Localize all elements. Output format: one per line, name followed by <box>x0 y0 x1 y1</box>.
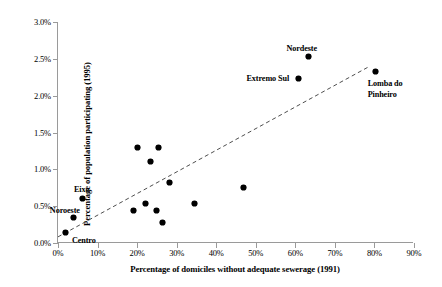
data-point <box>143 201 148 206</box>
y-axis-tick-label: 2.5% <box>34 54 51 64</box>
x-axis-tick-label: 30% <box>169 248 184 258</box>
y-axis-tick-label: 1.0% <box>34 164 51 174</box>
data-point <box>241 185 246 190</box>
plot-inner: EixoNoroesteCentroExtremo SulNordesteLom… <box>58 22 413 242</box>
x-axis-tick-label: 80% <box>367 248 382 258</box>
y-axis-tick <box>53 133 58 134</box>
y-axis-tick-label: 3.0% <box>34 17 51 27</box>
x-axis-tick-label: 90% <box>407 248 422 258</box>
y-axis-tick <box>53 169 58 170</box>
x-axis-title: Percentage of domiciles without adequate… <box>57 264 413 274</box>
data-point <box>306 54 311 59</box>
data-point <box>167 180 172 185</box>
x-axis-tick-label: 20% <box>130 248 145 258</box>
data-point <box>373 69 378 74</box>
y-axis-tick-label: 0.5% <box>34 201 51 211</box>
x-axis-tick-label: 70% <box>327 248 342 258</box>
data-point-label: Lomba do <box>368 79 403 89</box>
data-point <box>148 159 153 164</box>
data-point-label: Pinheiro <box>368 90 397 100</box>
data-point-label: Nordeste <box>286 44 317 54</box>
data-point-label: Extremo Sul <box>246 74 289 84</box>
data-point <box>192 201 197 206</box>
y-axis-tick-label: 1.5% <box>34 128 51 138</box>
plot-area: EixoNoroesteCentroExtremo SulNordesteLom… <box>57 22 413 243</box>
scatter-chart: Percentage of population participating (… <box>0 0 442 287</box>
y-axis-tick <box>53 96 58 97</box>
y-axis-tick <box>53 22 58 23</box>
data-point <box>154 208 159 213</box>
data-point-label: Noroeste <box>50 206 80 216</box>
y-axis-tick <box>53 59 58 60</box>
data-point <box>135 145 140 150</box>
data-point <box>63 230 68 235</box>
x-axis-tick-label: 60% <box>288 248 303 258</box>
trendline <box>58 22 413 242</box>
data-point <box>296 76 301 81</box>
data-point <box>71 215 76 220</box>
y-axis-tick <box>53 206 58 207</box>
data-point-label: Centro <box>72 236 96 246</box>
data-point <box>160 220 165 225</box>
x-axis-tick-label: 40% <box>209 248 224 258</box>
data-point <box>156 145 161 150</box>
data-point-label: Eixo <box>74 185 90 195</box>
x-axis-tick-label: 50% <box>248 248 263 258</box>
y-axis-tick-label: 2.0% <box>34 91 51 101</box>
y-axis-tick-label: 0.0% <box>34 238 51 248</box>
x-axis-tick-label: 10% <box>90 248 105 258</box>
data-point <box>131 208 136 213</box>
x-axis-tick-label: 0% <box>53 248 64 258</box>
data-point <box>80 196 85 201</box>
